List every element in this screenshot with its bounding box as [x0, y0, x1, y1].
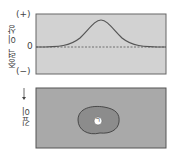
diagram-graphics: [0, 0, 175, 157]
body-label: ㄱ: [95, 115, 101, 124]
tick-minus: (−): [16, 66, 31, 76]
tick-zero: 0: [27, 41, 33, 51]
depth-label: 깊이: [19, 102, 32, 126]
gravity-anomaly-panel: [36, 14, 166, 74]
tick-plus: (+): [16, 9, 31, 19]
gravity-anomaly-label: 중력 이상: [5, 24, 18, 68]
